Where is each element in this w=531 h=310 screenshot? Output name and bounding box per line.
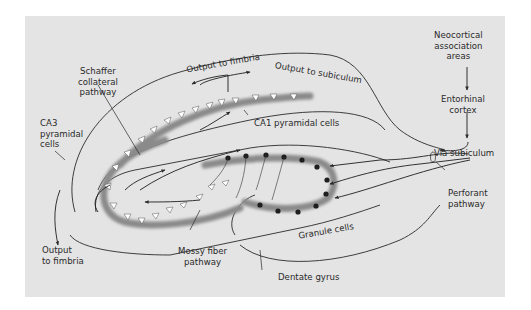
label-line: cortex [441,105,485,116]
label-line: Neocortical [434,30,483,41]
label-schaffer-collateral-pathway: Schaffer collateral pathway [78,66,118,98]
label-line: Entorhinal [441,94,485,105]
label-line: to fimbria [42,256,84,267]
label-line: association [434,41,483,52]
label-ca3-pyramidal-cells: CA3 pyramidal cells [40,118,83,150]
label-via-subiculum: Via subiculum [434,148,494,159]
label-ca1-pyramidal-cells: CA1 pyramidal cells [254,118,339,129]
label-line: Perforant [448,188,488,199]
label-line: pathway [78,87,118,98]
label-line: CA3 [40,118,83,129]
label-entorhinal-cortex: Entorhinal cortex [441,94,485,115]
label-line: pyramidal [40,129,83,140]
label-line: areas [434,51,483,62]
label-line: Output [42,245,84,256]
label-mossy-fiber-pathway: Mossy fiber pathway [178,246,227,267]
label-line: cells [40,139,83,150]
label-line: pathway [448,199,488,210]
label-line: Mossy fiber [178,246,227,257]
label-output-to-fimbria-bottom: Output to fimbria [42,245,84,266]
label-neocortical-association-areas: Neocortical association areas [434,30,483,62]
label-line: collateral [78,77,118,88]
label-line: Schaffer [78,66,118,77]
label-dentate-gyrus: Dentate gyrus [278,272,339,283]
cell-layers [104,96,334,225]
label-perforant-pathway: Perforant pathway [448,188,488,209]
ca1-ca3-layer [104,140,240,225]
label-line: pathway [178,257,227,268]
